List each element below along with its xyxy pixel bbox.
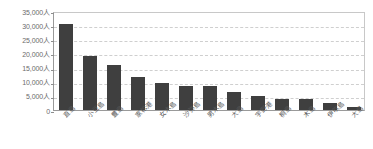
y-axis-tick-label: 0 [46,108,50,115]
y-axis-tick-label: 35,000人 [22,9,50,16]
y-axis-tick-labels: 35,000人30,000人25,000人20,000人15,000人10,00… [0,0,52,149]
bars-layer [54,13,364,110]
y-axis-tick-label: 30,000人 [22,23,50,30]
plot-area [53,12,365,111]
y-axis-tick-label: 25,000人 [22,37,50,44]
x-axis-tick-labels: 直島小豆島豊島家松港女木島沙弥島男木島大島宇野港桐島木島伊吹島大島 [53,112,365,149]
y-axis-tick-label: 5,000人 [26,93,50,100]
bar [83,56,98,110]
bar-chart: 35,000人30,000人25,000人20,000人15,000人10,00… [0,0,373,149]
y-axis-tick-label: 15,000人 [22,65,50,72]
y-axis-tick-label: 20,000人 [22,51,50,58]
y-axis-tick-label: 10,000人 [22,79,50,86]
bar [59,24,74,110]
